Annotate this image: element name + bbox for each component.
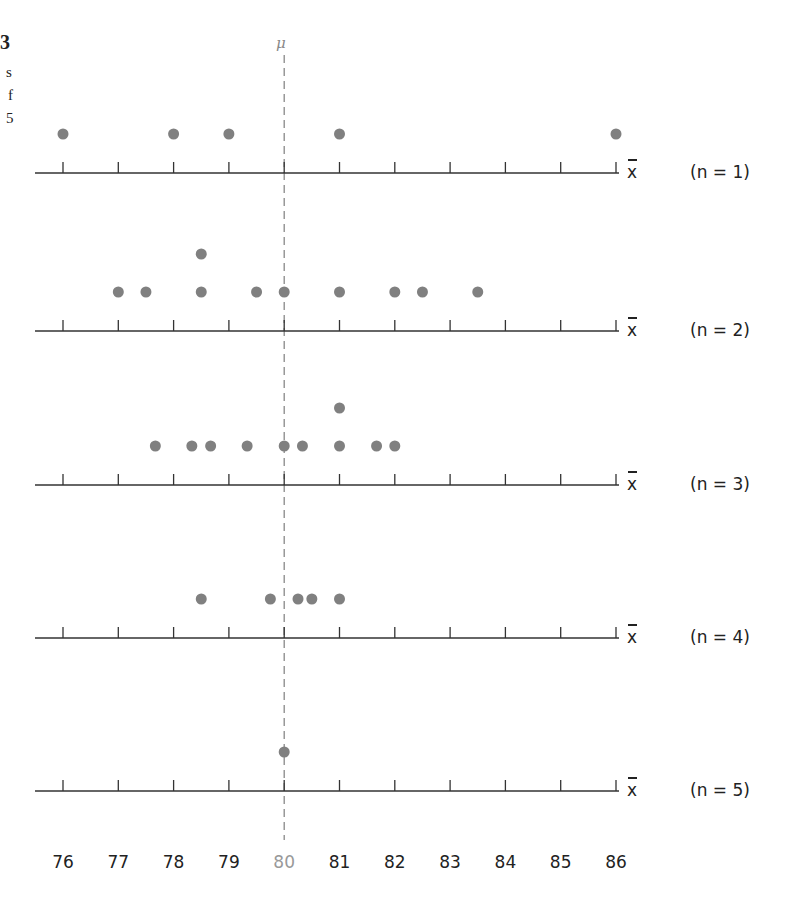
x-tick-label: 81 [320,852,360,872]
x-tick-label: 79 [209,852,249,872]
data-dot [611,129,622,140]
x-tick-label: 83 [430,852,470,872]
data-dot [113,287,124,298]
x-tick-label: 76 [43,852,83,872]
x-tick-label: 80 [264,852,304,872]
data-dot [417,287,428,298]
sample-size-label: (n = 4) [690,627,750,647]
data-dot [306,594,317,605]
x-tick-label: 84 [485,852,525,872]
x-bar-label: x [627,320,637,340]
data-dot [389,441,400,452]
sample-size-label: (n = 5) [690,780,750,800]
sample-size-label: (n = 3) [690,474,750,494]
x-bar-overline [628,471,637,473]
data-dot [279,287,290,298]
x-tick-label: 86 [596,852,636,872]
data-dot [265,594,276,605]
x-bar-label: x [627,474,637,494]
x-bar-text: x [627,780,637,800]
x-tick-label: 77 [98,852,138,872]
axes-group [35,162,619,791]
data-dot [334,594,345,605]
data-dot [205,441,216,452]
data-dot [334,441,345,452]
data-dot [293,594,304,605]
x-bar-label: x [627,627,637,647]
x-bar-text: x [627,320,637,340]
data-dot [279,441,290,452]
x-bar-label: x [627,162,637,182]
x-bar-overline [628,777,637,779]
data-dot [223,129,234,140]
sample-size-label: (n = 1) [690,162,750,182]
x-bar-overline [628,159,637,161]
data-dot [334,287,345,298]
data-dot [279,747,290,758]
data-dot [196,287,207,298]
data-dot [168,129,179,140]
dot-plot-chart [0,0,787,899]
data-dot [334,129,345,140]
data-dot [186,441,197,452]
x-tick-label: 85 [541,852,581,872]
x-bar-overline [628,317,637,319]
x-bar-text: x [627,474,637,494]
data-dot [150,441,161,452]
x-tick-label: 82 [375,852,415,872]
mu-label: μ [276,34,286,52]
data-dot [371,441,382,452]
sample-size-label: (n = 2) [690,320,750,340]
data-dot [334,403,345,414]
data-dot [389,287,400,298]
x-bar-text: x [627,627,637,647]
x-tick-label: 78 [154,852,194,872]
data-dot [472,287,483,298]
x-bar-overline [628,624,637,626]
data-dot [196,594,207,605]
dots-group [58,129,622,758]
x-bar-label: x [627,780,637,800]
x-bar-text: x [627,162,637,182]
data-dot [242,441,253,452]
data-dot [297,441,308,452]
data-dot [251,287,262,298]
data-dot [140,287,151,298]
data-dot [196,249,207,260]
data-dot [58,129,69,140]
